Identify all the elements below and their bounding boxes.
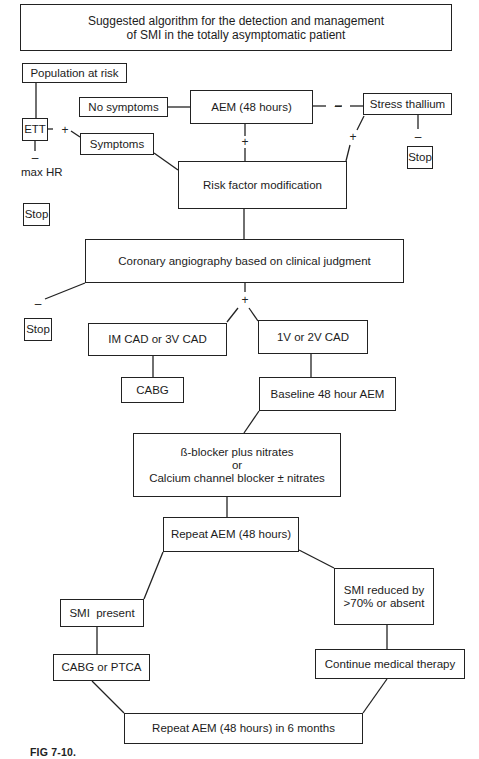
node-1v-2v-cad: 1V or 2V CAD [258,320,368,354]
node-population-at-risk: Population at risk [22,63,127,83]
node-label: Population at risk [30,67,118,80]
node-label: Coronary angiography based on clinical j… [118,255,371,268]
edge-label-ett-negative: – [32,152,39,164]
node-label-line1: ß-blocker plus nitrates [180,446,293,459]
edge-label-ett-positive: + [61,124,68,136]
figure-title-line2: of SMI in the totally asymptomatic patie… [127,28,346,42]
node-smi-present: SMI present [60,599,144,627]
node-stress-thallium: Stress thallium [363,93,452,115]
node-label: Stop [408,151,432,164]
node-label: 1V or 2V CAD [277,331,349,344]
node-label: IM CAD or 3V CAD [108,333,206,346]
edge-label-aem-positive: + [241,136,248,148]
node-label: Stop [26,323,50,336]
node-label-line3: Calcium channel blocker ± nitrates [149,472,325,485]
figure-title-line1: Suggested algorithm for the detection an… [88,14,384,28]
node-continue-medical-therapy: Continue medical therapy [315,649,465,679]
node-risk-factor-modification: Risk factor modification [178,161,347,209]
node-repeat-aem-6-months: Repeat AEM (48 hours) in 6 months [124,713,363,744]
edge-label-thallium-positive: + [349,131,356,143]
node-label: Risk factor modification [203,179,322,192]
node-repeat-aem: Repeat AEM (48 hours) [163,517,299,552]
node-smi-reduced: SMI reduced by >70% or absent [334,568,434,625]
node-stop-thallium: Stop [407,146,433,169]
edge-label-aem-thallium-negative: – [335,100,342,112]
node-im-cad-3v-cad: IM CAD or 3V CAD [88,323,227,356]
node-label: AEM (48 hours) [211,101,292,114]
node-label: Stop [25,208,49,221]
node-label: No symptoms [88,101,158,114]
node-aem-48-hours: AEM (48 hours) [190,90,313,124]
node-label: SMI present [69,607,134,620]
node-label-line1: SMI reduced by [344,584,425,597]
node-no-symptoms: No symptoms [79,97,168,117]
node-label: Stress thallium [370,98,445,111]
node-label: Baseline 48 hour AEM [271,388,385,401]
node-medical-therapy-options: ß-blocker plus nitrates or Calcium chann… [133,433,341,497]
max-hr-label: max HR [21,166,63,178]
edge-label-angiography-positive: + [241,294,248,306]
node-baseline-aem: Baseline 48 hour AEM [259,377,396,411]
node-symptoms: Symptoms [80,133,154,155]
node-label: Repeat AEM (48 hours) [171,528,291,541]
node-label: ETT [24,123,46,136]
node-ett: ETT [22,118,48,141]
node-label-line2: or [232,459,242,472]
node-label: CABG [136,384,169,397]
node-label: Repeat AEM (48 hours) in 6 months [152,722,335,735]
edge-label-angiography-negative: – [35,298,42,310]
node-stop-ett: Stop [23,203,50,226]
node-cabg-or-ptca: CABG or PTCA [53,654,150,681]
node-label-line2: >70% or absent [344,597,425,610]
node-label: Symptoms [90,138,144,151]
figure-title-box: Suggested algorithm for the detection an… [20,4,452,51]
node-coronary-angiography: Coronary angiography based on clinical j… [85,239,404,283]
node-label: CABG or PTCA [62,661,142,674]
node-label: Continue medical therapy [325,658,455,671]
figure-caption: FIG 7-10. [30,746,76,758]
edge-label-thallium-negative: – [415,131,422,143]
node-cabg: CABG [121,377,184,403]
node-stop-angiography: Stop [24,318,52,341]
